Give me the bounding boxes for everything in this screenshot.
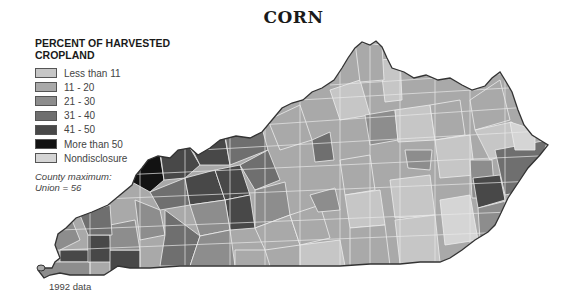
county [355, 42, 384, 82]
county [60, 250, 90, 262]
county [110, 220, 140, 250]
county [435, 135, 475, 178]
kentucky-bend [37, 265, 45, 271]
county [300, 240, 345, 266]
county [110, 250, 140, 280]
kentucky-county-map [0, 0, 587, 297]
county [405, 150, 432, 170]
county [390, 175, 435, 218]
data-year-note: 1992 data [49, 281, 91, 292]
county [395, 215, 440, 264]
county-fills [0, 0, 587, 297]
county [40, 262, 90, 280]
county [395, 105, 435, 142]
county [345, 190, 385, 228]
